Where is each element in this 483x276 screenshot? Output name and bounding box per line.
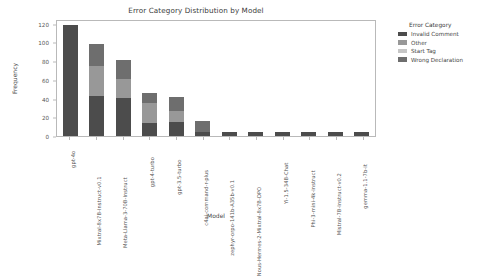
bar-segment xyxy=(142,123,157,136)
bars-container xyxy=(57,21,375,136)
bar-segment xyxy=(354,132,369,136)
x-tick-label: gpt-4-turbo xyxy=(149,157,155,187)
x-tick-mark xyxy=(363,137,364,140)
legend-item[interactable]: Start Tag xyxy=(398,48,482,54)
x-tick: Nous-Hermes-2-Mixtral-8x7B-DPO xyxy=(243,137,270,209)
legend-label: Start Tag xyxy=(411,48,436,54)
x-tick: gpt-4o xyxy=(56,137,83,209)
bar-segment xyxy=(142,103,157,123)
stacked-bar xyxy=(116,60,131,136)
bar-segment xyxy=(89,44,104,66)
x-tick: Yi-1.5-34B-Chat xyxy=(269,137,296,209)
legend-swatch xyxy=(398,32,407,37)
bar-segment xyxy=(328,132,343,136)
bar-segment xyxy=(195,121,210,132)
stacked-bar xyxy=(301,132,316,136)
x-axis-label: Model xyxy=(56,212,376,219)
x-tick-label: gpt-4o xyxy=(69,151,75,168)
legend-item[interactable]: Wrong Declaration xyxy=(398,57,482,63)
y-tick-label: 60 xyxy=(42,78,49,84)
y-tick-label: 20 xyxy=(42,115,49,121)
bar-segment xyxy=(222,132,237,136)
stacked-bar xyxy=(222,132,237,136)
x-tick-label: gemma-1.1-7b-it xyxy=(363,164,369,208)
bar-segment xyxy=(301,132,316,136)
legend-label: Other xyxy=(411,40,427,46)
bar-segment xyxy=(275,132,290,136)
stacked-bar xyxy=(354,132,369,136)
bar-group xyxy=(57,21,84,136)
legend-title: Error Category xyxy=(409,22,482,28)
bar-segment xyxy=(116,98,131,136)
y-axis: 020406080100120 xyxy=(0,20,56,137)
bar-group xyxy=(137,21,164,136)
bar-group xyxy=(243,21,270,136)
bar-segment xyxy=(169,122,184,136)
x-tick: gpt-3.5-turbo xyxy=(163,137,190,209)
x-tick-label: Mixtral-8x7B-Instruct-v0.1 xyxy=(96,176,102,245)
legend: Error Category Invalid CommentOtherStart… xyxy=(398,22,482,65)
legend-swatch xyxy=(398,57,407,62)
y-tick-label: 40 xyxy=(42,97,49,103)
bar-group xyxy=(110,21,137,136)
bar-group xyxy=(84,21,111,136)
bar-segment xyxy=(248,132,263,136)
x-tick: c4ai-command-r-plus xyxy=(189,137,216,209)
x-tick-mark xyxy=(229,137,230,140)
x-tick-mark xyxy=(149,137,150,140)
bar-segment xyxy=(89,96,104,136)
stacked-bar xyxy=(169,97,184,136)
x-tick-mark xyxy=(176,137,177,140)
x-axis: gpt-4oMixtral-8x7B-Instruct-v0.1Meta-Lla… xyxy=(56,137,376,209)
legend-label: Wrong Declaration xyxy=(411,57,463,63)
x-tick: zephyr-orpo-141b-A35b-v0.1 xyxy=(216,137,243,209)
plot-area xyxy=(56,20,376,137)
y-tick-label: 100 xyxy=(38,40,49,46)
x-tick-mark xyxy=(123,137,124,140)
stacked-bar xyxy=(142,93,157,136)
legend-swatch xyxy=(398,40,407,45)
x-tick: gemma-1.1-7b-it xyxy=(349,137,376,209)
y-tick-label: 80 xyxy=(42,59,49,65)
x-tick: Mixtral-8x7B-Instruct-v0.1 xyxy=(83,137,110,209)
x-tick-label: Mistral-7B-Instruct-v0.2 xyxy=(336,173,342,235)
x-tick-label: Yi-1.5-34B-Chat xyxy=(283,163,289,204)
stacked-bar xyxy=(63,25,78,136)
x-tick-mark xyxy=(69,137,70,140)
bar-segment xyxy=(89,66,104,96)
chart-title: Error Category Distribution by Model xyxy=(0,6,392,15)
y-tick-label: 120 xyxy=(38,22,49,28)
bar-segment xyxy=(63,25,78,136)
x-tick: Phi-3-mini-4k-instruct xyxy=(296,137,323,209)
x-tick-mark xyxy=(96,137,97,140)
bar-group xyxy=(190,21,217,136)
x-tick: gpt-4-turbo xyxy=(136,137,163,209)
bar-group xyxy=(269,21,296,136)
x-tick-label: gpt-3.5-turbo xyxy=(176,160,182,195)
legend-label: Invalid Comment xyxy=(411,31,459,37)
y-tick-label: 0 xyxy=(45,134,49,140)
bar-segment xyxy=(195,132,210,136)
bar-segment xyxy=(142,93,157,103)
bar-segment xyxy=(116,60,131,79)
bar-group xyxy=(349,21,376,136)
stacked-bar xyxy=(248,132,263,136)
stacked-bar xyxy=(275,132,290,136)
x-tick-mark xyxy=(203,137,204,140)
stacked-bar xyxy=(328,132,343,136)
x-tick-mark xyxy=(283,137,284,140)
legend-item[interactable]: Invalid Comment xyxy=(398,31,482,37)
legend-item[interactable]: Other xyxy=(398,40,482,46)
legend-rows: Invalid CommentOtherStart TagWrong Decla… xyxy=(398,31,482,63)
stacked-bar xyxy=(195,121,210,136)
bar-group xyxy=(163,21,190,136)
bar-segment xyxy=(169,97,184,111)
x-tick-mark xyxy=(336,137,337,140)
x-tick: Meta-Llama-3-70B-Instruct xyxy=(109,137,136,209)
x-tick-label: Phi-3-mini-4k-instruct xyxy=(309,171,315,228)
bar-segment xyxy=(169,111,184,122)
stacked-bar xyxy=(89,44,104,136)
x-tick: Mistral-7B-Instruct-v0.2 xyxy=(323,137,350,209)
bar-group xyxy=(216,21,243,136)
